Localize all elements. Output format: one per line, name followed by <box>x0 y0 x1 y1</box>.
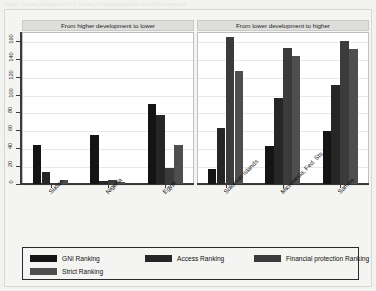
gridline <box>23 60 193 61</box>
y-axis-tick-label: 60 <box>5 125 16 131</box>
bar <box>349 49 358 184</box>
y-axis-tick-label: 160 <box>5 36 16 42</box>
figure-title-strip: Figure: Country rankings by GNI, Access,… <box>0 0 376 9</box>
bar <box>217 128 226 184</box>
y-axis-tick <box>16 148 20 149</box>
bar <box>283 48 292 184</box>
y-axis-tick-label: 120 <box>5 72 16 78</box>
bar <box>99 181 108 184</box>
gridline <box>23 42 193 43</box>
legend-swatch-strict <box>30 268 57 275</box>
chart-legend: GNI Ranking Access Ranking Financial pro… <box>22 247 359 280</box>
y-axis-tick <box>16 95 20 96</box>
gridline <box>23 113 193 114</box>
y-axis-tick <box>16 41 20 42</box>
bar <box>323 131 332 184</box>
y-axis-tick <box>16 130 20 131</box>
y-axis-tick-label: 140 <box>5 54 16 60</box>
legend-swatch-gni <box>30 255 57 262</box>
bar <box>265 146 274 184</box>
bar <box>274 98 283 184</box>
bar <box>340 41 349 184</box>
y-axis-tick-label: 0 <box>5 179 16 185</box>
bar <box>292 56 301 184</box>
y-axis-tick <box>16 166 20 167</box>
y-axis-tick-label: 100 <box>5 90 16 96</box>
bar <box>33 145 42 184</box>
chart-screenshot: Figure: Country rankings by GNI, Access,… <box>0 0 376 291</box>
panel-header-left: From higher development to lower <box>22 20 194 31</box>
legend-label-access: Access Ranking <box>177 254 224 263</box>
y-axis-tick <box>16 112 20 113</box>
bar <box>148 104 157 184</box>
bar <box>174 145 183 184</box>
legend-swatch-access <box>145 255 172 262</box>
y-axis-tick-label: 20 <box>5 161 16 167</box>
gridline <box>23 96 193 97</box>
y-axis-tick <box>16 59 20 60</box>
bar <box>226 37 235 184</box>
panel-header-right: From lower development to higher <box>197 20 369 31</box>
y-axis-tick-label: 40 <box>5 143 16 149</box>
y-axis-tick-label: 80 <box>5 107 16 113</box>
gridline <box>23 78 193 79</box>
y-axis-line <box>20 32 22 184</box>
legend-label-gni: GNI Ranking <box>62 254 100 263</box>
legend-swatch-financial-protection <box>254 255 281 262</box>
bar <box>90 135 99 184</box>
bar <box>331 85 340 184</box>
figure-canvas: From higher development to lower From lo… <box>4 9 372 287</box>
bar <box>156 115 165 184</box>
gridline <box>23 131 193 132</box>
gridline <box>23 149 193 150</box>
bar <box>208 169 217 184</box>
legend-label-financial-protection: Financial protection Ranking <box>286 254 369 263</box>
bar <box>235 71 244 184</box>
plot-area-left <box>22 32 194 184</box>
y-axis-tick <box>16 77 20 78</box>
legend-label-strict: Strict Ranking <box>62 267 103 276</box>
bar <box>42 172 51 184</box>
